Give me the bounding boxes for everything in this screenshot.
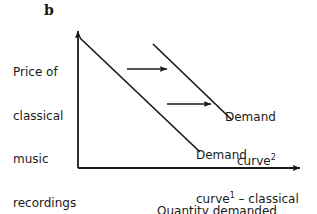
demand-curve-2-line [153,44,232,120]
panel-label: b [44,2,54,18]
demand-curve-1-label-line-1: Demand [196,148,299,163]
demand-curve-1-line [80,38,200,152]
demand-curve-shift-figure: b Price of classical music recordings Qu… [0,0,317,214]
demand-curve-1-label: Demand curve1 – classical music recordin… [196,119,299,214]
y-axis-label-line-1: Price of [13,65,76,80]
y-axis-label-line-3: music [13,152,76,167]
y-axis-label-line-2: classical [13,109,76,124]
y-axis-label-line-4: recordings [13,196,76,211]
demand-curve-1-label-line-2: curve1 – classical [196,192,299,207]
y-axis-label: Price of classical music recordings [13,36,76,214]
